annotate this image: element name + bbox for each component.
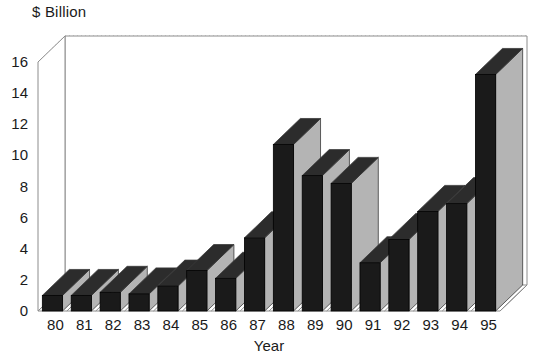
plot-area (0, 0, 538, 364)
x-tick-81: 81 (69, 317, 99, 332)
x-tick-83: 83 (127, 317, 157, 332)
y-tick-0: 0 (2, 303, 28, 318)
x-axis-title: Year (0, 337, 538, 354)
y-tick-2: 2 (2, 272, 28, 287)
x-tick-91: 91 (358, 317, 388, 332)
x-tick-89: 89 (300, 317, 330, 332)
x-tick-90: 90 (329, 317, 359, 332)
y-tick-16: 16 (2, 54, 28, 69)
y-tick-4: 4 (2, 241, 28, 256)
y-tick-12: 12 (2, 116, 28, 131)
x-tick-93: 93 (416, 317, 446, 332)
x-tick-85: 85 (185, 317, 215, 332)
y-tick-10: 10 (2, 147, 28, 162)
x-tick-80: 80 (40, 317, 70, 332)
x-tick-82: 82 (98, 317, 128, 332)
x-tick-94: 94 (445, 317, 475, 332)
x-tick-95: 95 (474, 317, 504, 332)
x-tick-87: 87 (243, 317, 273, 332)
x-tick-84: 84 (156, 317, 186, 332)
y-tick-14: 14 (2, 85, 28, 100)
bar-95 (475, 48, 522, 311)
x-tick-92: 92 (387, 317, 417, 332)
x-tick-86: 86 (214, 317, 244, 332)
y-tick-6: 6 (2, 210, 28, 225)
y-tick-8: 8 (2, 179, 28, 194)
bar-chart: $ Billion 0246810121416 8081828384858687… (0, 0, 538, 364)
x-tick-88: 88 (271, 317, 301, 332)
